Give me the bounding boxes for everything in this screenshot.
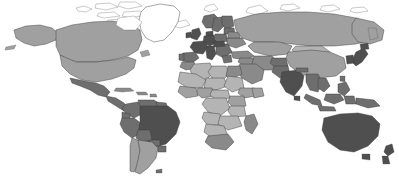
region-nepal-bhutan: [296, 68, 308, 72]
world-map-container: [0, 0, 399, 183]
region-austria-hungary: [213, 41, 225, 47]
region-taiwan: [340, 76, 345, 82]
region-korea: [346, 55, 354, 64]
region-ireland: [186, 32, 192, 38]
region-tanzania: [228, 106, 246, 117]
region-indonesia-java: [318, 106, 336, 111]
region-greece: [222, 55, 232, 63]
region-hispaniola: [136, 92, 148, 95]
region-somalia: [252, 88, 264, 98]
region-indonesia-sulawesi: [344, 96, 356, 104]
region-tasmania: [362, 154, 370, 160]
region-sri-lanka: [294, 96, 300, 101]
region-japan-hokkaido: [360, 43, 369, 50]
region-uruguay: [158, 146, 166, 152]
world-map-svg: [0, 0, 399, 183]
region-cuba: [114, 88, 134, 92]
region-portugal: [179, 54, 184, 61]
region-caribbean-island: [150, 94, 157, 97]
